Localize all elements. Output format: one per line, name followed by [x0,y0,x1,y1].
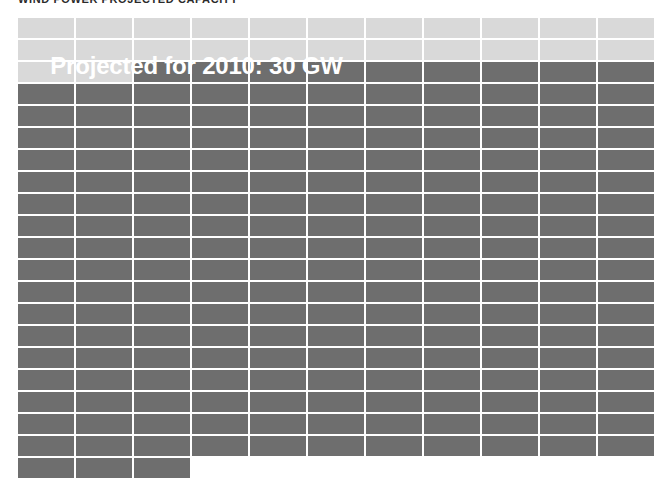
pictogram-cell [424,304,480,324]
pictogram-cell [250,84,306,104]
pictogram-cell [308,62,364,82]
pictogram-cell [18,326,74,346]
pictogram-cell [192,128,248,148]
pictogram-cell [598,128,654,148]
pictogram-cell [424,392,480,412]
pictogram-cell [482,194,538,214]
pictogram-cell [598,62,654,82]
pictogram-cell [76,106,132,126]
pictogram-cell [308,304,364,324]
pictogram-cell [18,414,74,434]
pictogram-cell [134,128,190,148]
pictogram-cell [424,326,480,346]
pictogram-cell [18,260,74,280]
pictogram-cell [192,436,248,456]
pictogram-cell [424,370,480,390]
pictogram-cell [308,106,364,126]
pictogram-cell [308,84,364,104]
pictogram-cell [134,414,190,434]
pictogram-cell [366,304,422,324]
pictogram-cell [540,40,596,60]
pictogram-cell [540,348,596,368]
pictogram-cell [598,150,654,170]
pictogram-cell [424,216,480,236]
pictogram-cell [482,84,538,104]
pictogram-cell [76,62,132,82]
pictogram-cell [308,282,364,302]
pictogram-cell [424,436,480,456]
pictogram-cell [134,260,190,280]
pictogram-cell [424,18,480,38]
pictogram-cell [424,128,480,148]
pictogram-cell [308,260,364,280]
pictogram-cell [76,414,132,434]
pictogram-cell [308,150,364,170]
pictogram-cell [366,194,422,214]
pictogram-cell [308,370,364,390]
pictogram-cell [134,348,190,368]
pictogram-cell [366,150,422,170]
pictogram-cell [192,392,248,412]
pictogram-cell [250,238,306,258]
pictogram-cell [18,238,74,258]
pictogram-cell [76,150,132,170]
pictogram-cell [18,304,74,324]
pictogram-cell [424,106,480,126]
pictogram-cell [18,62,74,82]
pictogram-cell [598,216,654,236]
pictogram-cell [540,238,596,258]
pictogram-cell [76,84,132,104]
pictogram-cell [366,326,422,346]
pictogram-cell [192,40,248,60]
pictogram-cell [76,194,132,214]
pictogram-cell [134,436,190,456]
pictogram-cell [482,260,538,280]
pictogram-cell [250,216,306,236]
pictogram-cell [424,62,480,82]
pictogram-cell [308,392,364,412]
pictogram-cell [250,392,306,412]
pictogram-cell [192,106,248,126]
pictogram-cell [18,282,74,302]
pictogram-cell [598,414,654,434]
pictogram-cell [482,150,538,170]
pictogram-cell [250,106,306,126]
pictogram-cell [598,172,654,192]
pictogram-cell [482,282,538,302]
pictogram-cell [308,216,364,236]
pictogram-cell [76,238,132,258]
pictogram-cell [482,436,538,456]
pictogram-cell [134,238,190,258]
pictogram-cell [540,282,596,302]
page-title: WIND POWER PROJECTED CAPACITY [18,0,238,5]
pictogram-cell [482,348,538,368]
pictogram-cell [366,18,422,38]
pictogram-cell-grid [18,18,641,464]
pictogram-cell [308,348,364,368]
pictogram-cell [540,436,596,456]
pictogram-cell [598,326,654,346]
pictogram-cell [424,84,480,104]
pictogram-cell [134,40,190,60]
pictogram-cell [540,128,596,148]
pictogram-cell [482,128,538,148]
pictogram-cell [250,370,306,390]
pictogram-cell [250,172,306,192]
pictogram-cell [366,260,422,280]
pictogram-cell [76,304,132,324]
pictogram-cell [366,40,422,60]
pictogram-cell [366,348,422,368]
pictogram-cell [134,326,190,346]
pictogram-cell [366,128,422,148]
pictogram-cell [192,62,248,82]
pictogram-cell [598,282,654,302]
pictogram-cell [76,348,132,368]
pictogram-cell [308,414,364,434]
pictogram-cell [598,238,654,258]
pictogram-cell [482,216,538,236]
pictogram-cell [308,128,364,148]
pictogram-cell [18,84,74,104]
pictogram-cell [540,326,596,346]
pictogram-cell [134,62,190,82]
pictogram-cell [482,62,538,82]
